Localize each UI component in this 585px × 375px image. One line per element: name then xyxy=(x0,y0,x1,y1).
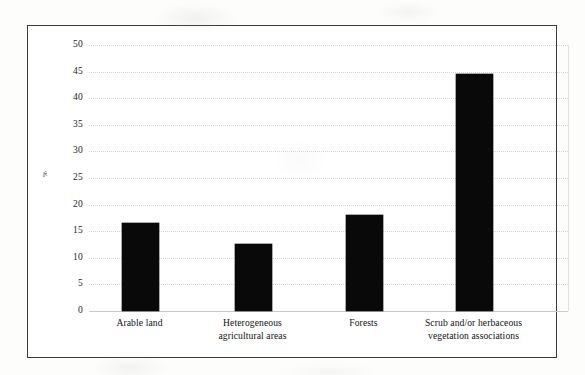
gridline xyxy=(89,231,568,232)
gridline xyxy=(89,205,568,206)
x-axis-category-label-line: vegetation associations xyxy=(394,330,554,343)
gridline xyxy=(89,178,568,179)
bar xyxy=(122,223,159,311)
y-axis-tick-label: 30 xyxy=(73,145,83,155)
x-axis-category-label-line: Arable land xyxy=(85,317,195,330)
y-axis-tick-label: 10 xyxy=(73,252,83,262)
x-axis-category-label: Scrub and/or herbaceousvegetation associ… xyxy=(394,317,554,342)
axis-baseline xyxy=(89,311,568,312)
y-axis-tick-label: 35 xyxy=(73,119,83,129)
y-axis-title: % xyxy=(41,171,49,177)
bar xyxy=(456,74,493,311)
gridline xyxy=(89,258,568,259)
y-axis-tick-label: 5 xyxy=(78,278,83,288)
gridline xyxy=(89,72,568,73)
y-axis-tick-label: 0 xyxy=(78,305,83,315)
y-axis-tick-column: 05101520253035404550 xyxy=(27,25,83,358)
plot-area xyxy=(89,45,569,311)
gridline xyxy=(89,125,568,126)
x-axis-category-label: Heterogeneousagricultural areas xyxy=(188,317,318,342)
y-axis-tick-label: 50 xyxy=(73,39,83,49)
x-axis-category-label-line: Scrub and/or herbaceous xyxy=(394,317,554,330)
x-axis-category-label-line: Heterogeneous xyxy=(188,317,318,330)
figure-frame xyxy=(27,25,557,358)
gridline xyxy=(89,45,568,46)
gridline xyxy=(89,151,568,152)
y-axis-tick-label: 25 xyxy=(73,172,83,182)
y-axis-tick-label: 45 xyxy=(73,66,83,76)
bar xyxy=(346,215,383,311)
bar xyxy=(235,244,272,311)
y-axis-tick-label: 20 xyxy=(73,199,83,209)
gridline xyxy=(89,284,568,285)
y-axis-tick-label: 15 xyxy=(73,225,83,235)
y-axis-tick-label: 40 xyxy=(73,92,83,102)
x-axis-category-label-line: agricultural areas xyxy=(188,330,318,343)
gridline xyxy=(89,98,568,99)
x-axis-category-label: Arable land xyxy=(85,317,195,330)
